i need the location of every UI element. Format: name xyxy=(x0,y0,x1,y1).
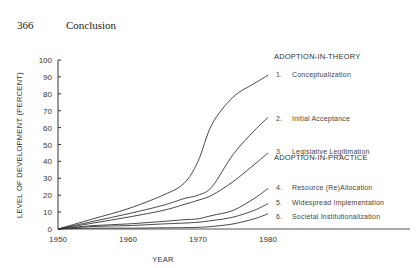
y-tick-label: 100 xyxy=(39,56,53,65)
y-tick-label: 70 xyxy=(43,107,52,116)
x-tick-label: 1970 xyxy=(189,235,207,244)
y-tick-label: 0 xyxy=(48,225,53,234)
chart-legend: ADOPTION-IN-THEORYADOPTION-IN-PRACTICE1.… xyxy=(274,52,384,220)
y-tick-label: 90 xyxy=(43,73,52,82)
legend-item-label: Resource (Re)Allocation xyxy=(292,184,372,192)
x-tick-label: 1960 xyxy=(119,235,137,244)
x-axis-title: YEAR xyxy=(152,255,174,264)
series-line-5 xyxy=(58,204,268,229)
legend-item-label: Legislative Legitimation xyxy=(292,148,370,156)
legend-item-label: Initial Acceptance xyxy=(292,115,350,123)
legend-item-label: Societal Institutionalization xyxy=(292,213,380,220)
legend-item-number: 4. xyxy=(276,184,282,191)
chart-curves xyxy=(58,75,268,229)
y-tick-label: 20 xyxy=(43,191,52,200)
y-axis-title: LEVEL OF DEVELOPMENT (PERCENT) xyxy=(15,72,24,218)
y-tick-label: 30 xyxy=(43,174,52,183)
legend-item-number: 5. xyxy=(276,199,282,206)
line-chart: 01020304050607080901001950196019701980 A… xyxy=(0,0,418,268)
series-line-3 xyxy=(58,153,268,229)
y-tick-label: 40 xyxy=(43,157,52,166)
y-tick-label: 10 xyxy=(43,208,52,217)
y-tick-label: 60 xyxy=(43,124,52,133)
y-tick-label: 80 xyxy=(43,90,52,99)
x-tick-label: 1950 xyxy=(49,235,67,244)
legend-item-number: 6. xyxy=(276,213,282,220)
legend-item-number: 1. xyxy=(276,71,282,78)
x-tick-label: 1980 xyxy=(259,235,277,244)
legend-item-number: 2. xyxy=(276,115,282,122)
series-line-1 xyxy=(58,75,268,229)
y-tick-label: 50 xyxy=(43,141,52,150)
legend-heading-theory: ADOPTION-IN-THEORY xyxy=(274,52,360,61)
legend-item-label: Widespread Implementation xyxy=(292,199,384,207)
legend-item-label: Conceptualization xyxy=(292,71,351,79)
legend-item-number: 3. xyxy=(276,148,282,155)
series-line-2 xyxy=(58,117,268,229)
